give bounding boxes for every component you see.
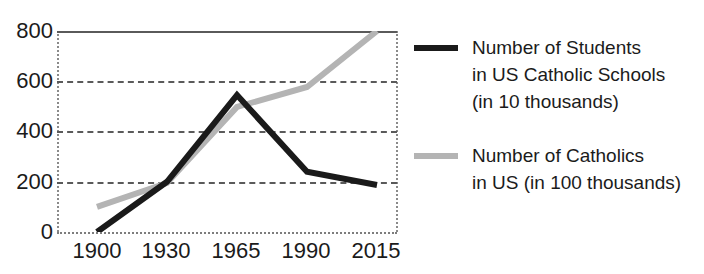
chart-legend: Number of Students in US Catholic School… xyxy=(414,24,704,254)
black-line-swatch-icon xyxy=(414,45,458,51)
gray-line-swatch-icon xyxy=(414,153,458,159)
x-tick-label-1965: 1965 xyxy=(212,238,261,264)
x-axis-labels: 1900 1930 1965 1990 2015 xyxy=(0,0,410,274)
legend-students-line1: Number of Students xyxy=(472,37,641,58)
legend-students-line2: in US Catholic Schools xyxy=(472,64,665,85)
chart-page: 800 600 400 200 0 1900 1930 1965 199 xyxy=(0,0,704,274)
legend-entry-students: Number of Students in US Catholic School… xyxy=(414,34,665,115)
legend-entry-catholics: Number of Catholics in US (in 100 thousa… xyxy=(414,142,681,196)
x-tick-label-2015: 2015 xyxy=(352,238,401,264)
legend-catholics-line1: Number of Catholics xyxy=(472,145,644,166)
legend-students-line3: (in 10 thousands) xyxy=(472,91,619,112)
x-tick-label-1990: 1990 xyxy=(282,238,331,264)
x-tick-label-1930: 1930 xyxy=(142,238,191,264)
legend-label-catholics: Number of Catholics in US (in 100 thousa… xyxy=(472,142,681,196)
line-chart: 800 600 400 200 0 1900 1930 1965 199 xyxy=(0,0,410,274)
legend-label-students: Number of Students in US Catholic School… xyxy=(472,34,665,115)
legend-catholics-line2: in US (in 100 thousands) xyxy=(472,172,681,193)
x-tick-label-1900: 1900 xyxy=(73,238,122,264)
